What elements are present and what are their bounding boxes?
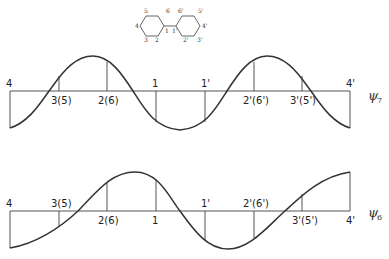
mol-label-6: 6 xyxy=(166,7,170,14)
atom-label: 3(5) xyxy=(51,95,72,106)
panel-psi6 xyxy=(10,172,350,249)
atom-label: 3'(5') xyxy=(290,95,316,106)
wavefunction-curve-psi7 xyxy=(10,56,350,130)
labels-psi7: 4 3(5) 2(6) 1 1' 2'(6') 3'(5') 4' ψ 7 xyxy=(6,78,382,106)
mol-label-4: 4 xyxy=(135,22,139,29)
biphenyl-mo-diagram: 1 2 3 4 5 6 1' 2' 3' 4' 5' 6' 4 3(5) 2(6… xyxy=(0,0,389,259)
atom-label: 3'(5') xyxy=(292,215,318,226)
labels-psi6: 4 3(5) 2(6) 1 1' 2'(6') 3'(5') 4' ψ 6 xyxy=(6,198,382,226)
mol-label-2p: 2' xyxy=(183,36,189,43)
mol-label-5p: 5' xyxy=(198,7,204,14)
panel-psi7 xyxy=(10,56,350,130)
atom-label: 1' xyxy=(201,78,210,89)
left-benzene-ring xyxy=(140,16,164,36)
mol-label-2: 2 xyxy=(155,36,159,43)
atom-label: 1 xyxy=(152,78,158,89)
right-benzene-ring xyxy=(176,16,200,36)
atom-label: 3(5) xyxy=(51,198,72,209)
atom-label: 2'(6') xyxy=(243,95,269,106)
atom-label: 2'(6') xyxy=(243,198,269,209)
biphenyl-structure xyxy=(140,16,200,36)
mol-label-5: 5 xyxy=(144,7,148,14)
mol-label-1p: 1' xyxy=(172,27,178,34)
psi-subscript: 6 xyxy=(377,213,382,222)
atom-label: 4' xyxy=(346,215,355,226)
psi-subscript: 7 xyxy=(377,96,382,105)
atom-label: 2(6) xyxy=(98,95,119,106)
mol-label-6p: 6' xyxy=(178,7,184,14)
mol-label-1: 1 xyxy=(165,27,169,34)
atom-label: 1 xyxy=(152,215,158,226)
atom-label: 2(6) xyxy=(98,215,119,226)
atom-label: 4 xyxy=(6,198,12,209)
atom-label: 4 xyxy=(6,78,12,89)
diagram-canvas: 1 2 3 4 5 6 1' 2' 3' 4' 5' 6' 4 3(5) 2(6… xyxy=(0,0,389,259)
atom-label: 4' xyxy=(346,78,355,89)
mol-label-4p: 4' xyxy=(202,22,208,29)
atom-label: 1' xyxy=(201,198,210,209)
mol-label-3p: 3' xyxy=(197,36,203,43)
molecule-labels: 1 2 3 4 5 6 1' 2' 3' 4' 5' 6' xyxy=(135,7,208,43)
mol-label-3: 3 xyxy=(144,36,148,43)
